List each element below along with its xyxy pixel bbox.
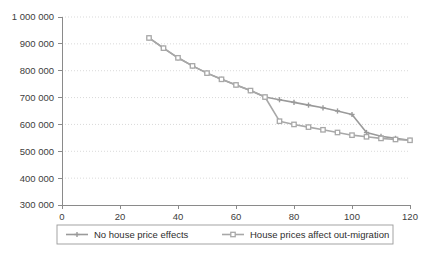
data-point-marker bbox=[205, 71, 209, 75]
data-point-marker bbox=[263, 95, 267, 99]
data-point-marker bbox=[335, 108, 340, 113]
legend-label: No house price effects bbox=[94, 229, 189, 240]
y-tick-label: 500 000 bbox=[20, 146, 54, 157]
x-tick-label: 60 bbox=[231, 211, 242, 222]
legend-label: House prices affect out-migration bbox=[250, 229, 389, 240]
grid-lines bbox=[62, 17, 410, 178]
data-point-marker bbox=[321, 128, 325, 132]
series-2 bbox=[147, 36, 412, 143]
data-point-marker bbox=[306, 102, 311, 107]
y-axis-tick-labels: 300 000400 000500 000600 000700 000800 0… bbox=[12, 11, 54, 210]
data-point-marker bbox=[219, 77, 223, 81]
data-point-marker bbox=[234, 83, 238, 87]
data-point-marker bbox=[161, 46, 165, 50]
chart-container: 300 000400 000500 000600 000700 000800 0… bbox=[0, 0, 426, 257]
data-point-marker bbox=[335, 130, 339, 134]
axes bbox=[58, 17, 410, 209]
data-point-marker bbox=[190, 64, 194, 68]
y-tick-label: 1 000 000 bbox=[12, 11, 54, 22]
x-tick-label: 20 bbox=[115, 211, 126, 222]
y-tick-label: 300 000 bbox=[20, 199, 54, 210]
x-tick-label: 100 bbox=[344, 211, 360, 222]
data-point-marker bbox=[320, 105, 325, 110]
line-chart: 300 000400 000500 000600 000700 000800 0… bbox=[0, 0, 426, 257]
data-point-marker bbox=[277, 119, 281, 123]
y-tick-label: 400 000 bbox=[20, 173, 54, 184]
data-point-marker bbox=[291, 100, 296, 105]
data-point-marker bbox=[231, 232, 235, 236]
x-tick-label: 0 bbox=[59, 211, 64, 222]
data-point-marker bbox=[292, 122, 296, 126]
data-point-marker bbox=[364, 135, 368, 139]
data-point-marker bbox=[408, 138, 412, 142]
data-series bbox=[146, 35, 412, 143]
data-point-marker bbox=[147, 36, 151, 40]
y-tick-label: 800 000 bbox=[20, 65, 54, 76]
data-point-marker bbox=[350, 133, 354, 137]
chart-legend: No house price effectsHouse prices affec… bbox=[57, 225, 393, 244]
series-1 bbox=[146, 35, 412, 143]
data-point-marker bbox=[306, 125, 310, 129]
y-tick-label: 600 000 bbox=[20, 119, 54, 130]
x-tick-label: 120 bbox=[402, 211, 418, 222]
x-tick-label: 40 bbox=[173, 211, 184, 222]
series-line bbox=[149, 38, 410, 140]
x-tick-label: 80 bbox=[289, 211, 300, 222]
y-tick-label: 900 000 bbox=[20, 38, 54, 49]
series-line bbox=[149, 38, 410, 140]
data-point-marker bbox=[379, 136, 383, 140]
data-point-marker bbox=[393, 137, 397, 141]
x-axis-tick-labels: 020406080100120 bbox=[59, 211, 418, 222]
y-tick-label: 700 000 bbox=[20, 92, 54, 103]
data-point-marker bbox=[248, 88, 252, 92]
data-point-marker bbox=[176, 56, 180, 60]
